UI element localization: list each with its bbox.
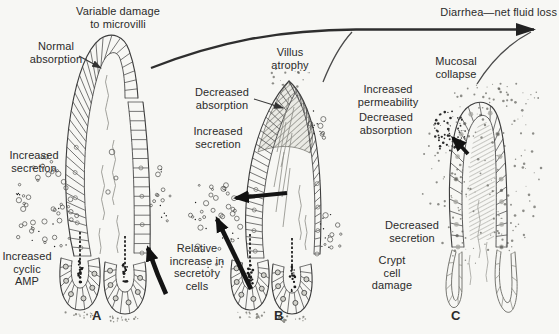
- label-villus-atrophy: Villus atrophy: [271, 46, 308, 71]
- damaged-crypt-right: [495, 250, 517, 312]
- collapse-hatch-interior: [469, 122, 495, 240]
- panel-letter-a: A: [92, 310, 102, 323]
- label-increased-secretion-a: Increased secretion: [9, 149, 58, 174]
- label-variable-damage: Variable damage to microvilli: [76, 5, 160, 30]
- label-normal-absorption: Normal absorption: [30, 40, 82, 65]
- label-relative-increase: Relative increase in secretory cells: [170, 242, 224, 292]
- label-diarrhea-net-fluid-loss: Diarrhea—net fluid loss: [440, 6, 557, 19]
- figure: Diarrhea—net fluid loss Variable damage …: [0, 0, 559, 334]
- label-crypt-cell-damage: Crypt cell damage: [372, 254, 412, 292]
- label-mucosal-collapse: Mucosal collapse: [435, 55, 477, 80]
- secretion-arrow-b-horizontal: [236, 193, 287, 198]
- callout-arrows: [79, 56, 283, 108]
- flow-branch-c: [477, 32, 531, 84]
- damaged-crypt-left: [446, 250, 462, 308]
- label-increased-secretion-b: Increased secretion: [193, 125, 242, 150]
- panel-letter-b: B: [274, 310, 284, 323]
- label-decreased-absorption-c: Decreased absorption: [359, 111, 413, 136]
- label-increased-permeability: Increased permeability: [358, 83, 419, 108]
- panel-letter-c: C: [451, 310, 461, 323]
- label-increased-cyclic-amp: Increased cyclic AMP: [2, 250, 51, 288]
- secretion-arrow-a: [148, 248, 166, 294]
- label-decreased-absorption-b: Decreased absorption: [195, 86, 249, 111]
- flow-branch-b: [323, 32, 352, 82]
- label-decreased-secretion-c: Decreased secretion: [385, 219, 439, 244]
- villus-c-drawing: [422, 83, 542, 313]
